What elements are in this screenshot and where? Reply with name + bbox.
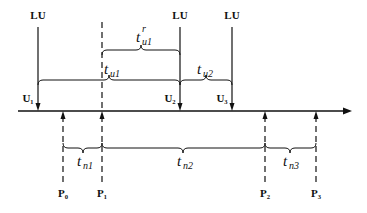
svg-text:u1: u1 — [142, 36, 152, 47]
u2-label: U₂ — [164, 92, 176, 104]
svg-text:n1: n1 — [83, 160, 93, 171]
svg-text:u2: u2 — [203, 68, 213, 79]
time-axis — [18, 108, 352, 115]
brace-tu1r — [102, 45, 180, 55]
label-tu1: t u1 — [104, 61, 120, 79]
svg-text:t: t — [104, 61, 109, 77]
lu-label-3: LU — [224, 9, 239, 21]
lu-arrow-1 — [36, 27, 41, 111]
p2-label: P₂ — [260, 187, 271, 199]
svg-text:n3: n3 — [289, 160, 299, 171]
brace-tn2 — [102, 143, 265, 153]
svg-text:t: t — [77, 153, 82, 169]
lu-arrow-2 — [178, 27, 183, 111]
p0-label: P₀ — [58, 187, 69, 199]
svg-text:t: t — [136, 29, 141, 45]
p1-label: P₁ — [97, 187, 107, 199]
label-tu1r: t u1 r — [136, 23, 152, 47]
brace-tn3 — [265, 143, 316, 153]
label-tn1: t n1 — [77, 153, 93, 171]
label-tn3: t n3 — [283, 153, 299, 171]
svg-text:t: t — [197, 61, 202, 77]
label-tn2: t n2 — [177, 153, 193, 171]
svg-text:n2: n2 — [183, 160, 193, 171]
label-tu2: t u2 — [197, 61, 213, 79]
lu-arrow-3 — [230, 27, 235, 111]
svg-text:t: t — [177, 153, 182, 169]
svg-text:t: t — [283, 153, 288, 169]
lu-label-2: LU — [172, 9, 187, 21]
timeline-diagram: LU LU LU U₁ U₂ U₃ P₀ P₁ P₂ P₃ — [0, 0, 367, 213]
p3-label: P₃ — [311, 187, 322, 199]
lu-label-1: LU — [30, 9, 45, 21]
brace-tu1 — [38, 75, 180, 85]
svg-text:u1: u1 — [110, 68, 120, 79]
svg-text:r: r — [142, 23, 146, 34]
u1-label: U₁ — [22, 92, 33, 104]
brace-tn1 — [63, 143, 102, 153]
u3-label: U₃ — [216, 92, 228, 104]
